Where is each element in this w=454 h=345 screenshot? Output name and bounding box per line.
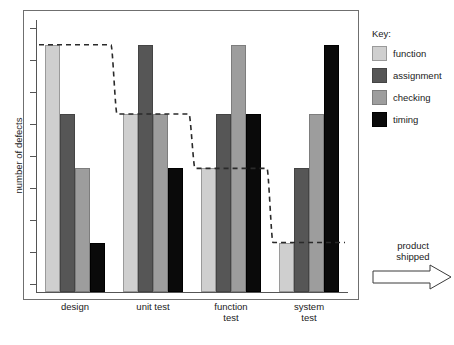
product-shipped-line1: product — [397, 240, 429, 251]
x-axis-label-line: test — [223, 312, 238, 323]
legend-swatch-timing — [372, 112, 387, 127]
legend-label-timing: timing — [393, 114, 418, 125]
bar-function-test-assignment[interactable] — [216, 114, 231, 292]
legend-label-checking: checking — [393, 92, 431, 103]
y-axis-title: number of defects — [13, 91, 24, 221]
bar-unit-test-function[interactable] — [123, 114, 138, 292]
bar-design-function[interactable] — [45, 45, 60, 292]
product-shipped-label: product shipped — [372, 240, 454, 262]
legend-entry-checking[interactable]: checking — [372, 90, 454, 105]
x-axis-label-function-test: functiontest — [192, 301, 270, 323]
bar-design-assignment[interactable] — [60, 114, 75, 292]
legend-label-function: function — [393, 48, 426, 59]
bar-unit-test-assignment[interactable] — [138, 45, 153, 292]
product-shipped-annotation: product shipped — [372, 240, 454, 290]
bar-function-test-timing[interactable] — [246, 114, 261, 292]
x-axis-label-line: function — [214, 301, 247, 312]
legend-swatch-assignment — [372, 68, 387, 83]
x-axis-label-line: unit test — [136, 301, 169, 312]
bar-function-test-checking[interactable] — [231, 45, 246, 292]
right-arrow-icon — [372, 264, 452, 290]
legend-swatch-checking — [372, 90, 387, 105]
bar-system-test-assignment[interactable] — [294, 168, 309, 292]
x-axis-label-line: test — [301, 312, 316, 323]
bar-system-test-checking[interactable] — [309, 114, 324, 292]
x-axis-label-system-test: systemtest — [270, 301, 348, 323]
product-shipped-line2: shipped — [396, 251, 429, 262]
legend-title: Key: — [372, 28, 454, 39]
legend-entries: functionassignmentcheckingtiming — [372, 46, 454, 127]
x-axis-label-line: system — [294, 301, 324, 312]
legend-entry-timing[interactable]: timing — [372, 112, 454, 127]
bar-design-checking[interactable] — [75, 168, 90, 292]
legend-entry-function[interactable]: function — [372, 46, 454, 61]
bar-unit-test-timing[interactable] — [168, 168, 183, 292]
legend-swatch-function — [372, 46, 387, 61]
legend-entry-assignment[interactable]: assignment — [372, 68, 454, 83]
legend-label-assignment: assignment — [393, 70, 442, 81]
chart-container: number of defects designunit testfunctio… — [0, 0, 454, 345]
legend: Key: functionassignmentcheckingtiming — [372, 28, 454, 134]
x-axis-label-design: design — [36, 301, 114, 312]
bar-system-test-timing[interactable] — [324, 45, 339, 292]
x-axis-label-unit-test: unit test — [114, 301, 192, 312]
bar-design-timing[interactable] — [90, 243, 105, 292]
bar-system-test-function[interactable] — [279, 243, 294, 292]
bar-function-test-function[interactable] — [201, 168, 216, 292]
bar-unit-test-checking[interactable] — [153, 114, 168, 292]
x-axis-label-line: design — [61, 301, 89, 312]
bars-layer — [36, 20, 348, 292]
x-axis-line — [36, 292, 348, 293]
